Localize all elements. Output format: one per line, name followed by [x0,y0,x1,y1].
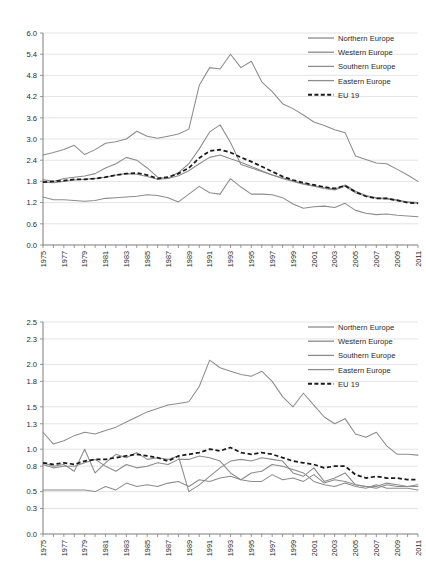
x-axis-tick-label: 1987 [164,251,173,267]
x-axis-tick-label: 1995 [247,540,256,556]
x-axis-tick-label: 1989 [185,540,194,556]
y-axis-tick-label: 2.5 [26,318,37,327]
y-axis-tick-label: 1.5 [26,403,37,412]
y-axis-tick-label: 4.2 [26,92,37,101]
x-axis-tick-label: 1991 [205,251,214,267]
bottom-chart-plot-area: 0.00.30.50.81.01.31.51.82.02.32.51975197… [0,289,426,578]
figure-container: 0.00.61.21.82.43.03.64.24.85.46.01975197… [0,0,426,579]
x-axis-tick-label: 2001 [310,540,319,556]
y-axis-tick-label: 0.6 [26,220,37,229]
y-axis-tick-label: 0.8 [26,462,37,471]
x-axis-tick-label: 1989 [185,251,194,267]
legend-label-eastern-europe: Eastern Europe [338,77,391,86]
x-axis-tick-label: 1987 [164,540,173,556]
x-axis-tick-label: 2007 [372,540,381,556]
y-axis-tick-label: 2.3 [26,335,37,344]
legend-label-western-europe: Western Europe [338,48,393,57]
y-axis-tick-label: 2.4 [26,156,37,165]
y-axis-tick-label: 2.0 [26,360,37,369]
x-axis-tick-label: 2009 [393,540,402,556]
x-axis-tick-label: 1993 [226,251,235,267]
bottom-chart-panel: 0.00.30.50.81.01.31.51.82.02.32.51975197… [0,289,426,578]
x-axis-tick-label: 1979 [80,251,89,267]
x-axis-tick-label: 1993 [226,540,235,556]
x-axis-tick-label: 1977 [60,540,69,556]
x-axis-tick-label: 1999 [289,540,298,556]
x-axis-tick-label: 1983 [122,540,131,556]
x-axis-tick-label: 1979 [80,540,89,556]
y-axis-tick-label: 0.0 [26,241,37,250]
x-axis-tick-label: 1981 [101,251,110,267]
x-axis-tick-label: 1983 [122,251,131,267]
x-axis-tick-label: 1985 [143,251,152,267]
x-axis-tick-label: 2005 [351,540,360,556]
y-axis-tick-label: 6.0 [26,29,37,38]
y-axis-tick-label: 0.5 [26,487,37,496]
y-axis-tick-label: 0.3 [26,504,37,513]
legend-label-eu-19: EU 19 [338,91,359,100]
x-axis-tick-label: 2011 [414,251,423,267]
legend-label-eu-19: EU 19 [338,380,359,389]
bottom-chart-svg: 0.00.30.50.81.01.31.51.82.02.32.51975197… [0,289,426,578]
x-axis-tick-label: 2003 [330,251,339,267]
x-axis-tick-label: 1991 [205,540,214,556]
y-axis-tick-label: 3.6 [26,114,37,123]
x-axis-tick-label: 2005 [351,251,360,267]
series-line-northern-europe [43,449,418,491]
x-axis-tick-label: 2009 [393,251,402,267]
legend-label-northern-europe: Northern Europe [338,323,394,332]
top-chart-svg: 0.00.61.21.82.43.03.64.24.85.46.01975197… [0,0,426,289]
y-axis-tick-label: 5.4 [26,50,37,59]
legend-label-northern-europe: Northern Europe [338,34,394,43]
x-axis-tick-label: 2007 [372,251,381,267]
x-axis-tick-label: 1975 [39,251,48,267]
legend-label-southern-europe: Southern Europe [338,62,395,71]
x-axis-tick-label: 1997 [268,251,277,267]
y-axis-tick-label: 3.0 [26,135,37,144]
y-axis-tick-label: 1.8 [26,377,37,386]
x-axis-tick-label: 2011 [414,540,423,556]
x-axis-tick-label: 1997 [268,540,277,556]
legend-label-southern-europe: Southern Europe [338,351,395,360]
x-axis-tick-label: 1977 [60,251,69,267]
y-axis-tick-label: 1.0 [26,445,37,454]
y-axis-tick-label: 1.3 [26,420,37,429]
y-axis-tick-label: 4.8 [26,71,37,80]
y-axis-tick-label: 0.0 [26,530,37,539]
top-chart-plot-area: 0.00.61.21.82.43.03.64.24.85.46.01975197… [0,0,426,289]
series-line-eastern-europe [43,179,418,217]
x-axis-tick-label: 1985 [143,540,152,556]
x-axis-tick-label: 2001 [310,251,319,267]
x-axis-tick-label: 1981 [101,540,110,556]
x-axis-tick-label: 2003 [330,540,339,556]
x-axis-tick-label: 1975 [39,540,48,556]
x-axis-tick-label: 1995 [247,251,256,267]
series-line-northern-europe [43,125,418,203]
series-line-eu-19 [43,448,418,480]
y-axis-tick-label: 1.2 [26,198,37,207]
top-chart-panel: 0.00.61.21.82.43.03.64.24.85.46.01975197… [0,0,426,289]
legend-label-western-europe: Western Europe [338,337,393,346]
y-axis-tick-label: 1.8 [26,177,37,186]
x-axis-tick-label: 1999 [289,251,298,267]
legend-label-eastern-europe: Eastern Europe [338,366,391,375]
